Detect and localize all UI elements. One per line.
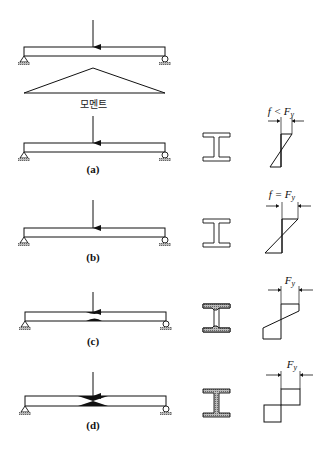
case-label: (b) [86, 251, 100, 264]
moment-label: 모멘트 [80, 99, 107, 110]
stress-diagram-d: Fy [264, 358, 313, 422]
beam [24, 143, 165, 152]
stress-diagram-c: Fy [263, 274, 313, 339]
svg-text:Fy: Fy [284, 274, 296, 288]
svg-text:f < Fy: f < Fy [268, 105, 295, 119]
moment-triangle [24, 68, 165, 93]
i-section-elastic [203, 133, 230, 161]
case-label: (d) [86, 419, 100, 432]
svg-text:f = Fy: f = Fy [269, 188, 296, 202]
case-c: (c) Fy [19, 274, 313, 348]
i-section-partially-plastic [203, 304, 230, 332]
plastic-hinge-diagram: 모멘트 (a) f < Fy (b) f = Fy [0, 0, 330, 449]
case-b: (b) f = Fy [18, 188, 311, 264]
plastic-zone-bottom [86, 319, 102, 322]
case-d: (d) Fy [19, 358, 313, 432]
i-section-elastic [203, 219, 230, 247]
stress-diagram-a: f < Fy [268, 105, 304, 167]
roller-support-icon [159, 152, 171, 161]
pin-support-icon [18, 56, 30, 65]
stress-diagram-b: f = Fy [265, 188, 311, 253]
case-label: (a) [87, 163, 100, 176]
i-section-fully-plastic [203, 389, 230, 417]
pin-support-icon [18, 152, 30, 161]
roller-support-icon [159, 56, 171, 65]
pin-support-icon [19, 321, 31, 330]
moment-diagram: 모멘트 [24, 68, 165, 110]
roller-support-icon [160, 406, 172, 415]
plastic-hinge-zone [78, 396, 108, 406]
plastic-zone-top [86, 312, 102, 314]
pin-support-icon [19, 406, 31, 415]
loaded-beam-top [18, 20, 171, 65]
pin-support-icon [18, 237, 30, 246]
case-a: (a) f < Fy [18, 105, 304, 176]
roller-support-icon [160, 321, 172, 330]
beam [24, 228, 165, 237]
beam [24, 47, 165, 56]
roller-support-icon [159, 237, 171, 246]
case-label: (c) [87, 335, 100, 348]
svg-text:Fy: Fy [286, 358, 298, 372]
